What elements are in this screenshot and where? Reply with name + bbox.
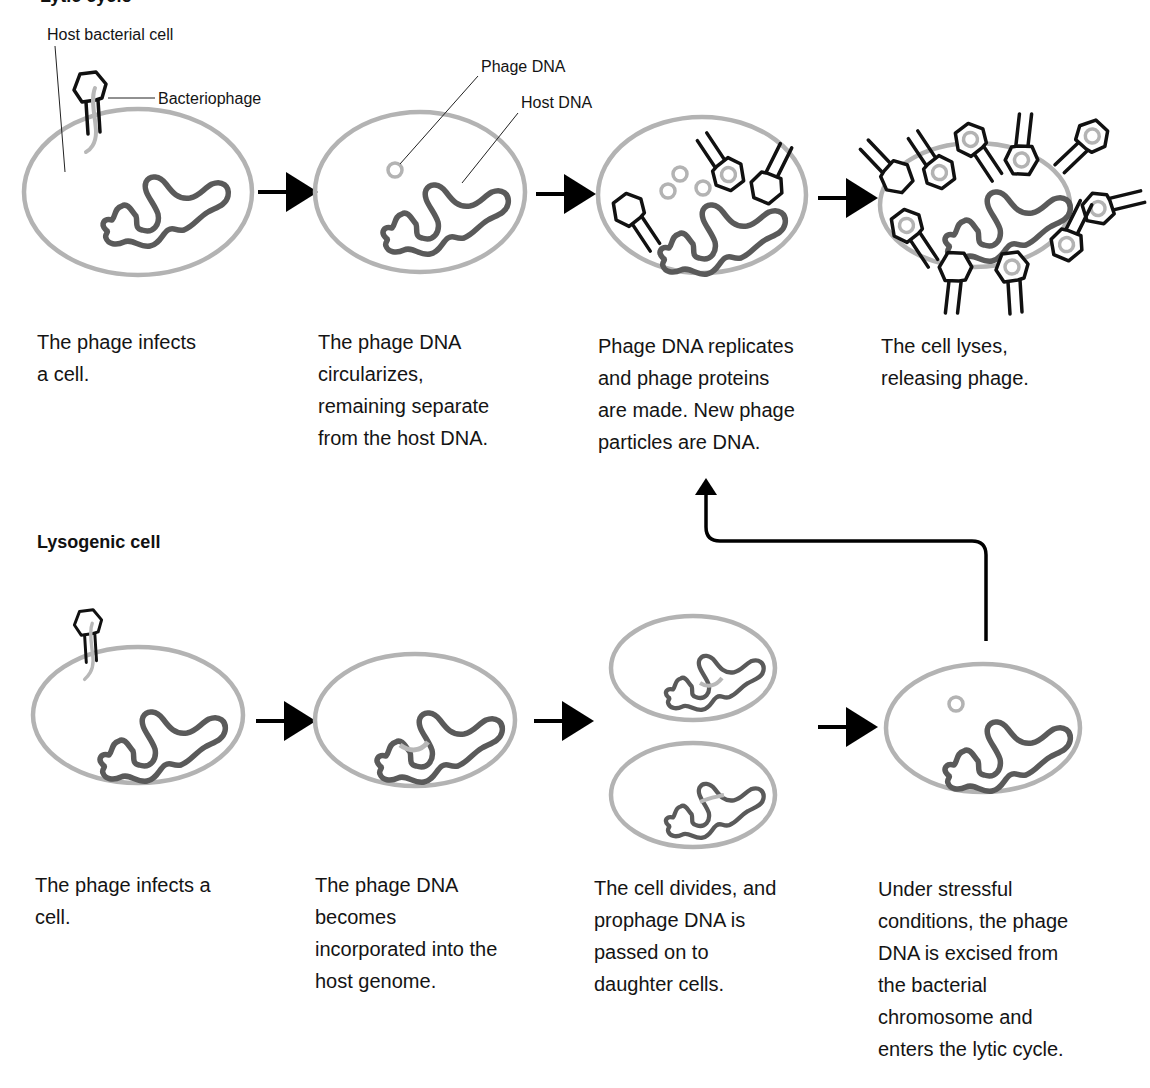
lysogenic-step-1-caption: The phage infects a cell. bbox=[35, 869, 211, 933]
host-dna-label: Host DNA bbox=[521, 94, 592, 112]
lysogenic-cell-title: Lysogenic cell bbox=[37, 532, 160, 553]
lysogenic-step-4-cell bbox=[886, 664, 1080, 792]
lytic-step-2-cell bbox=[315, 76, 525, 272]
lytic-cycle-title: Lytic cycle bbox=[40, 0, 131, 7]
lysogenic-step-1-cell bbox=[33, 610, 243, 783]
lytic-step-2-caption: The phage DNA circularizes, remaining se… bbox=[318, 326, 489, 454]
lysogenic-step-3-cells bbox=[611, 616, 775, 847]
host-bacterial-cell-label: Host bacterial cell bbox=[47, 26, 173, 44]
bacteriophage-label: Bacteriophage bbox=[158, 90, 261, 108]
lysogenic-step-4-caption: Under stressful conditions, the phage DN… bbox=[878, 873, 1068, 1065]
lysogenic-step-3-caption: The cell divides, and prophage DNA is pa… bbox=[594, 872, 776, 1000]
lytic-step-3-caption: Phage DNA replicates and phage proteins … bbox=[598, 330, 795, 458]
lytic-step-3-cell bbox=[598, 117, 806, 274]
lytic-step-1-cell bbox=[24, 46, 252, 275]
bacteriophage-icon bbox=[74, 610, 101, 680]
phage-dna-circle-icon bbox=[388, 163, 402, 177]
lysogenic-step-2-cell bbox=[315, 654, 515, 786]
lytic-step-1-caption: The phage infects a cell. bbox=[37, 326, 196, 390]
phage-dna-label: Phage DNA bbox=[481, 58, 566, 76]
return-to-lytic-arrow-icon bbox=[706, 495, 986, 641]
lysogenic-step-2-caption: The phage DNA becomes incorporated into … bbox=[315, 869, 497, 997]
lytic-step-4-cell bbox=[854, 111, 1147, 316]
lytic-step-4-caption: The cell lyses, releasing phage. bbox=[881, 330, 1029, 394]
